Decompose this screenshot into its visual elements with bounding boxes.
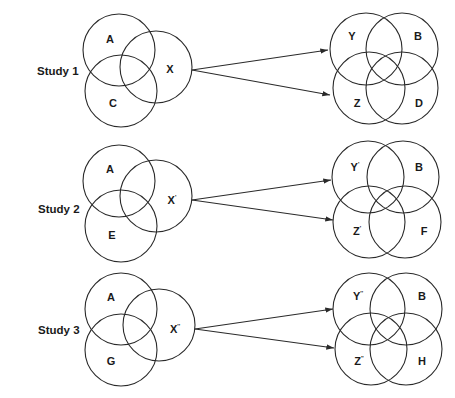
label-y: Y	[348, 30, 356, 42]
label-a: A	[106, 33, 114, 45]
study-1-group: Study 1 A X C Y B Z D	[37, 13, 438, 127]
label-y: Y'	[351, 161, 360, 173]
circle-a	[83, 14, 155, 86]
circle-g	[85, 314, 157, 386]
circle-b	[367, 141, 439, 213]
label-f: F	[421, 225, 428, 237]
label-c: C	[109, 97, 117, 109]
study-3-right-venn: Y'' B Z'' H	[333, 273, 442, 385]
label-a: A	[106, 163, 114, 175]
circle-h	[370, 313, 442, 385]
circle-a	[85, 273, 157, 345]
arrow-to-y	[195, 309, 333, 329]
label-y: Y''	[353, 290, 364, 302]
circle-d	[366, 52, 438, 124]
label-z: Z''	[354, 355, 364, 367]
study-3-left-venn: A X'' G	[85, 273, 195, 386]
circle-c	[85, 55, 157, 127]
circle-y	[332, 141, 404, 213]
arrow-to-z	[192, 200, 333, 220]
label-b: B	[414, 30, 422, 42]
study-3-label: Study 3	[38, 324, 80, 336]
circle-b	[370, 273, 442, 345]
label-h: H	[418, 355, 426, 367]
study-2-left-venn: A X' E	[83, 145, 192, 262]
study-2-label: Study 2	[38, 203, 80, 215]
study-1-label: Study 1	[37, 65, 79, 77]
circle-e	[85, 190, 157, 262]
study-2-group: Study 2 A X' E Y' B Z' F	[38, 141, 441, 262]
label-e: E	[108, 229, 115, 241]
label-g: G	[107, 355, 116, 367]
label-z: Z'	[353, 225, 362, 237]
study-3-group: Study 3 A X'' G Y'' B Z'' H	[38, 273, 442, 386]
study-2-right-venn: Y' B Z' F	[332, 141, 441, 258]
venn-diagram: Study 1 A X C Y B Z D Study 2 A	[0, 0, 455, 398]
circle-x	[120, 160, 192, 232]
arrow-to-z	[195, 329, 334, 348]
label-x: X'	[168, 194, 177, 206]
label-x: X	[166, 63, 174, 75]
arrow-to-z	[192, 70, 330, 95]
label-x: X''	[170, 323, 181, 335]
label-b: B	[415, 161, 423, 173]
label-b: B	[418, 290, 426, 302]
label-z: Z	[354, 97, 361, 109]
arrow-to-y	[192, 50, 328, 70]
circle-x	[120, 31, 192, 103]
label-a: A	[107, 291, 115, 303]
circle-z	[335, 313, 407, 385]
arrow-to-y	[192, 180, 331, 200]
study-1-left-venn: A X C	[83, 14, 192, 127]
label-d: D	[415, 97, 423, 109]
circle-x	[123, 289, 195, 361]
circle-a	[83, 145, 155, 217]
circle-y	[333, 273, 405, 345]
study-1-right-venn: Y B Z D	[330, 13, 438, 124]
